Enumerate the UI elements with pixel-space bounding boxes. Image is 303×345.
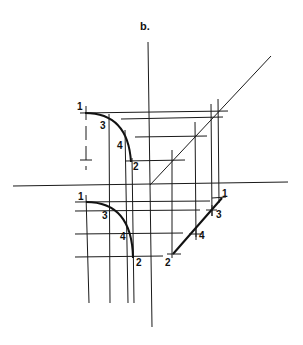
upper-arc: [85, 113, 131, 162]
projection-line-h4: [135, 136, 207, 137]
edge-view-line: [173, 198, 222, 254]
projection-line-h1: [80, 111, 228, 113]
projection-line-v3: [109, 114, 110, 303]
miter-line: [150, 56, 271, 185]
projection-diagram: b. 1 3 4 2 1 3 4 2 1 3 4 2: [0, 0, 303, 345]
projection-line-h3: [121, 117, 223, 119]
edge-label-1: 1: [222, 188, 228, 199]
diagram-svg: b. 1 3 4 2 1 3 4 2 1 3 4 2: [0, 0, 303, 345]
edge-label-3: 3: [216, 209, 222, 220]
edge-label-4: 4: [199, 230, 205, 241]
projection-line-v2: [132, 158, 134, 303]
upper-label-2: 2: [133, 161, 139, 172]
lower-label-1: 1: [78, 191, 84, 202]
lower-line-h3: [75, 210, 200, 211]
edge-label-2: 2: [165, 257, 171, 268]
projection-line-v4: [125, 130, 128, 303]
miter-projection-v3: [211, 104, 212, 216]
lower-line-h2: [75, 256, 163, 257]
lower-label-3: 3: [102, 210, 108, 221]
lower-label-2: 2: [136, 257, 142, 268]
figure-title: b.: [140, 20, 150, 32]
miter-projection-v1: [218, 99, 219, 203]
lower-label-4: 4: [120, 231, 126, 242]
upper-label-1: 1: [77, 101, 83, 112]
upper-label-3: 3: [100, 120, 106, 131]
miter-projection-v4: [195, 122, 196, 237]
upper-label-4: 4: [117, 140, 123, 151]
